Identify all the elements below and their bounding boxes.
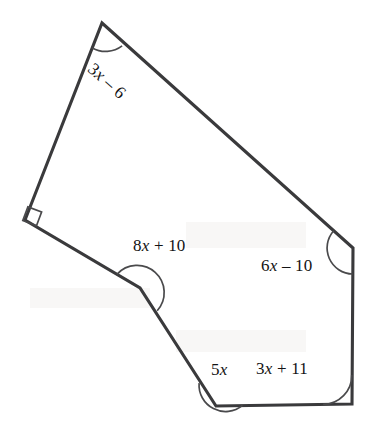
angle-arc-bottom-right: [323, 375, 352, 404]
angle-label-right: 6x – 10: [261, 257, 312, 274]
angle-label-bottom-right: 3x + 11: [256, 360, 308, 377]
geometry-figure: 3x – 6 8x + 10 6x – 10 5x 3x + 11: [0, 0, 381, 435]
angle-arc-apex-top: [92, 46, 122, 52]
polygon-outline: [25, 23, 353, 406]
polygon-drawing: [0, 0, 381, 435]
angle-label-reflex: 8x + 10: [133, 237, 186, 254]
angle-label-bottom-left: 5x: [211, 361, 227, 378]
